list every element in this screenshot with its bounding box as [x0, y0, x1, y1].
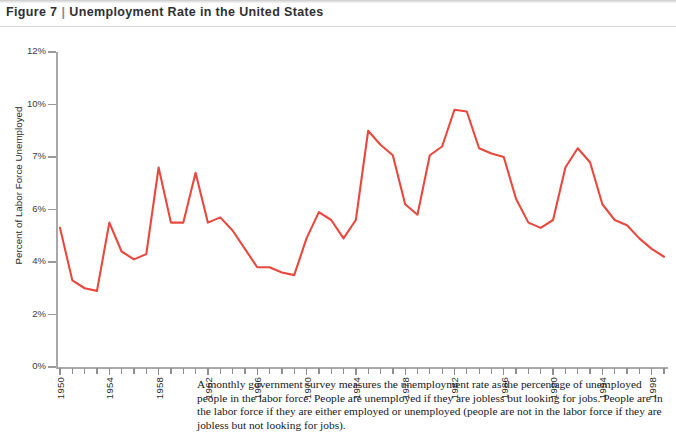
- x-tick-label: 1958: [154, 377, 165, 399]
- figure-title-text: Unemployment Rate in the United States: [69, 5, 323, 19]
- header-rule: [0, 0, 676, 3]
- x-tick-label: 1950: [55, 377, 66, 399]
- title-separator: |: [61, 5, 65, 19]
- x-tick-label: 1954: [104, 377, 115, 399]
- caption-text: A monthly government survey measures the…: [197, 378, 667, 432]
- figure-title: Figure 7|Unemployment Rate in the United…: [6, 5, 324, 19]
- figure-caption: A monthly government survey measures the…: [197, 378, 667, 432]
- series-svg: [0, 30, 676, 380]
- chart-area: Percent of Labor Force Unemployed 12%10%…: [0, 30, 676, 380]
- figure-page: Figure 7|Unemployment Rate in the United…: [0, 0, 676, 437]
- figure-number: Figure 7: [6, 5, 57, 19]
- unemployment-rate-line: [60, 110, 664, 291]
- title-underline: [0, 26, 676, 27]
